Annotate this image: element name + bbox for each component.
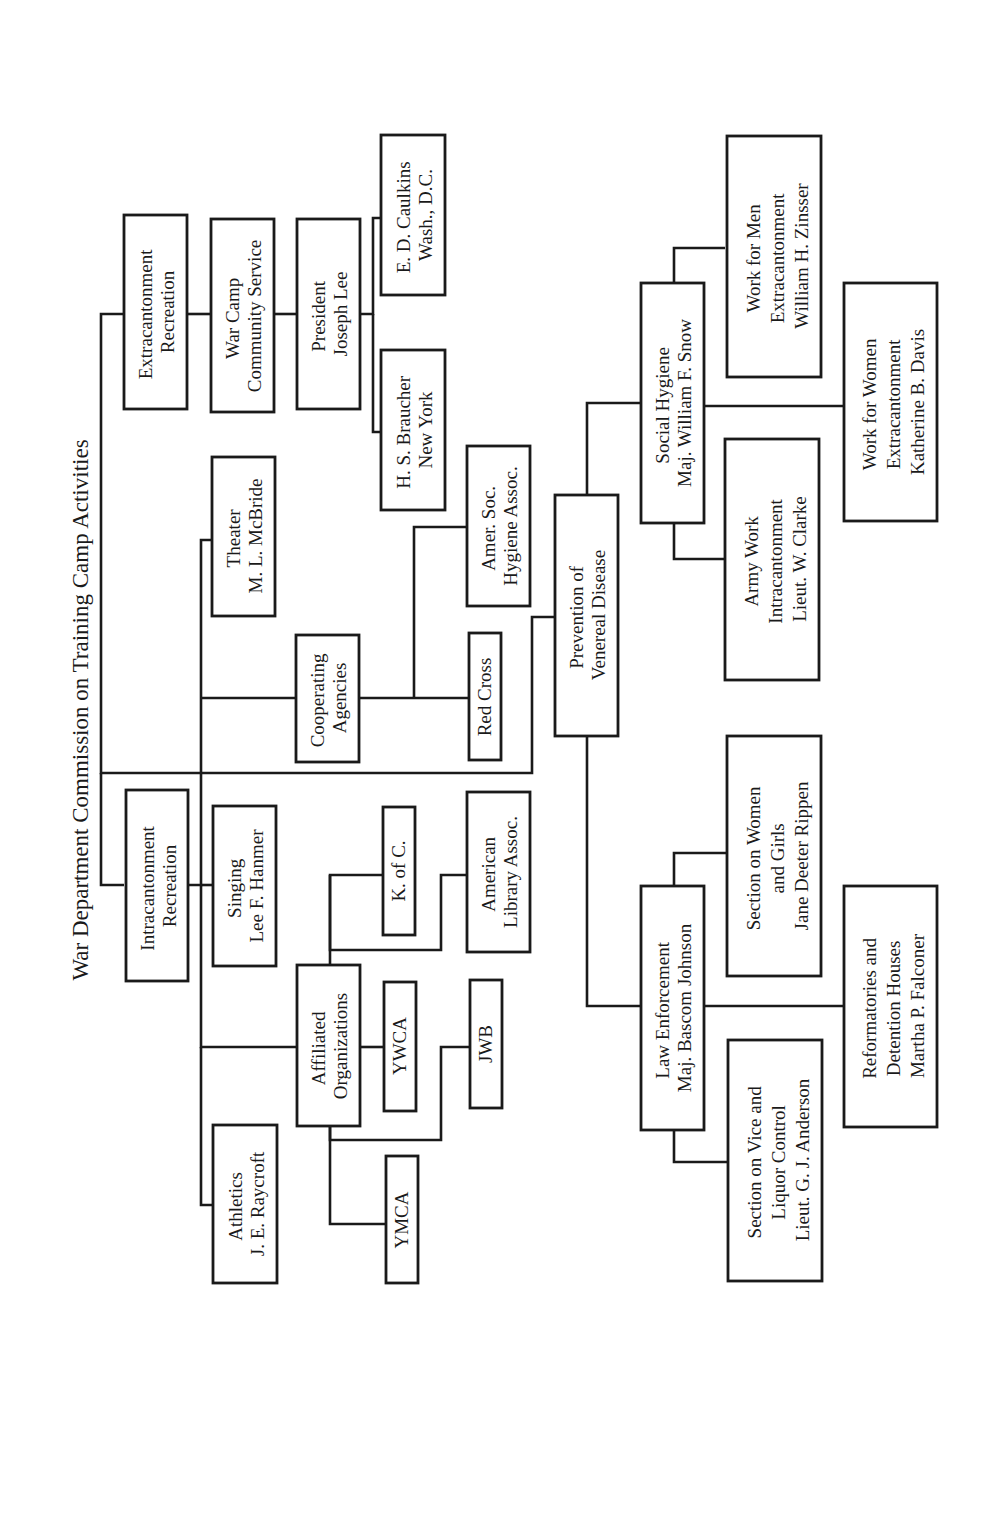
- node-army-work: Army Work Intracantonment Lieut. W. Clar…: [725, 439, 819, 680]
- svg-text:Cooperating Agencies: Cooperating Agencies: [307, 649, 350, 748]
- svg-text:K. of C.: K. of C.: [388, 840, 409, 901]
- node-jwb: JWB: [470, 980, 502, 1108]
- svg-text:Section on Vice and Liqu: Section on Vice and Liquor Control Lieut…: [744, 1078, 813, 1241]
- svg-text:Army Work Intracantonmen: Army Work Intracantonment Lieut. W. Clar…: [741, 494, 810, 623]
- svg-text:President Joseph Lee: President Joseph Lee: [308, 272, 351, 357]
- node-war-camp-community-service: War Camp Community Service: [211, 219, 274, 412]
- svg-text:Work for Women Extracant: Work for Women Extracantonment Katherine…: [859, 329, 928, 475]
- node-e-d-caulkins: E. D. Caulkins Wash., D.C.: [381, 135, 445, 295]
- node-singing: Singing Lee F. Hanmer: [213, 806, 276, 966]
- svg-text:Work for Men Extracanton: Work for Men Extracantonment William H. …: [743, 183, 812, 329]
- node-reformatories: Reformatories and Detention Houses Marth…: [844, 886, 937, 1127]
- svg-text:YWCA: YWCA: [389, 1017, 410, 1075]
- node-work-for-men: Work for Men Extracantonment William H. …: [727, 136, 821, 377]
- svg-text:Social Hygiene Maj. Will: Social Hygiene Maj. William F. Snow: [652, 319, 695, 487]
- svg-text:JWB: JWB: [475, 1025, 496, 1063]
- node-section-women-girls: Section on Women and Girls Jane Deeter R…: [727, 736, 821, 976]
- svg-text:Prevention of Venereal D: Prevention of Venereal Disease: [566, 550, 609, 680]
- node-american-library-assoc: American Library Assoc.: [467, 792, 530, 952]
- node-cooperating-agencies: Cooperating Agencies: [296, 635, 359, 762]
- node-work-for-women: Work for Women Extracantonment Katherine…: [844, 283, 937, 521]
- svg-text:Reformatories and Detent: Reformatories and Detention Houses Marth…: [859, 933, 928, 1079]
- svg-text:YMCA: YMCA: [391, 1191, 412, 1248]
- node-ymca: YMCA: [386, 1156, 418, 1283]
- svg-text:American Library Assoc.: American Library Assoc.: [478, 816, 521, 928]
- node-social-hygiene: Social Hygiene Maj. William F. Snow: [641, 283, 704, 523]
- node-k-of-c: K. of C.: [383, 807, 415, 935]
- node-president-joseph-lee: President Joseph Lee: [297, 219, 360, 409]
- svg-text:Amer. Soc. Hygiene Assoc: Amer. Soc. Hygiene Assoc.: [478, 466, 521, 585]
- node-extracantonment-recreation: Extracantonment Recreation: [124, 215, 187, 409]
- node-ywca: YWCA: [384, 982, 416, 1111]
- node-prevention-of-venereal-disease: Prevention of Venereal Disease: [555, 495, 618, 736]
- node-h-s-braucher: H. S. Braucher New York: [381, 350, 445, 510]
- org-chart: War Department Commission on Training Ca…: [0, 0, 1007, 1517]
- node-law-enforcement: Law Enforcement Maj. Bascom Johnson: [641, 886, 704, 1130]
- node-section-vice-liquor: Section on Vice and Liquor Control Lieut…: [728, 1040, 822, 1281]
- svg-text:Law Enforcement Maj. Bas: Law Enforcement Maj. Bascom Johnson: [652, 923, 695, 1092]
- node-athletics: Athletics J. E. Raycroft: [213, 1125, 277, 1283]
- svg-text:Red Cross: Red Cross: [474, 658, 495, 737]
- svg-text:E. D. Caulkins Wash., D.: E. D. Caulkins Wash., D.C.: [393, 157, 436, 274]
- chart-title: War Department Commission on Training Ca…: [68, 439, 93, 980]
- node-amer-soc-hygiene-assoc: Amer. Soc. Hygiene Assoc.: [467, 446, 530, 606]
- node-affiliated-organizations: Affiliated Organizations: [297, 965, 360, 1126]
- node-intracantonment-recreation: Intracantonment Recreation: [126, 790, 188, 981]
- svg-text:Affiliated Organizations: Affiliated Organizations: [308, 993, 351, 1099]
- node-theater: Theater M. L. McBride: [212, 457, 275, 616]
- node-red-cross: Red Cross: [469, 633, 501, 760]
